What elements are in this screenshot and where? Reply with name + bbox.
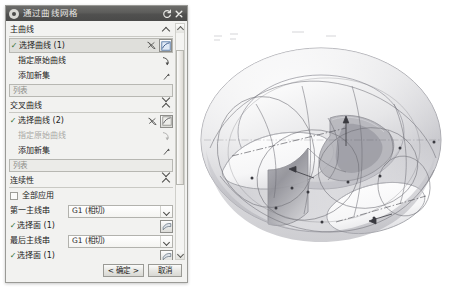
label-cross-select-curve: 选择曲线 (2) — [17, 114, 64, 128]
dialog-app-icon — [9, 9, 19, 19]
check-icon: ✓ — [10, 39, 18, 53]
curve-filter-icon[interactable] — [145, 39, 158, 52]
label-first-primary: 第一主线串 — [9, 204, 68, 218]
scrollbar-thumb[interactable] — [176, 50, 184, 185]
curve-filter-icon[interactable] — [146, 115, 159, 128]
combo-first-primary-value: G1 (相切) — [69, 205, 160, 217]
add-set-icon[interactable] — [160, 145, 173, 158]
label-last-primary: 最后主线串 — [9, 234, 68, 248]
label-cross-specify-origin: 指定原始曲线 — [17, 129, 66, 143]
combo-cross-list[interactable]: 列表 — [9, 159, 173, 172]
apply-all-checkbox[interactable] — [10, 192, 18, 200]
group-header-cross-curves[interactable]: 交叉曲线 — [9, 99, 173, 113]
cancel-button[interactable]: 取消 — [148, 264, 182, 277]
row-last-primary-continuity: 最后主线串 G1 (相切) — [9, 234, 173, 248]
combo-last-primary-value: G1 (相切) — [69, 235, 160, 247]
group-label-cross-curves: 交叉曲线 — [9, 99, 162, 112]
label-cross-add-new-set: 添加新集 — [17, 144, 50, 158]
combo-primary-list[interactable]: 列表 — [9, 84, 173, 97]
check-placeholder-icon: ✓ — [9, 69, 17, 83]
scroll-up-button[interactable] — [176, 24, 184, 33]
check-icon: ✓ — [9, 249, 17, 260]
row-primary-specify-origin[interactable]: ✓ 指定原始曲线 — [9, 54, 173, 68]
dialog-title: 通过曲线网格 — [23, 6, 161, 21]
check-placeholder-icon: ✓ — [9, 129, 17, 143]
scrollbar-track[interactable] — [176, 33, 184, 250]
select-curve-icon[interactable] — [160, 115, 173, 128]
3d-model-viewport[interactable] — [196, 0, 461, 297]
combo-last-primary-continuity[interactable]: G1 (相切) — [68, 235, 173, 248]
combo-cross-list-value: 列表 — [10, 159, 161, 172]
reset-icon[interactable] — [161, 8, 173, 20]
origin-point-icon[interactable] — [160, 55, 173, 68]
origin-point-icon — [160, 130, 173, 143]
dialog-scrollbar[interactable] — [175, 23, 185, 260]
label-last-primary-face: 选择面 (1) — [17, 249, 55, 260]
dialog-footer: < 确定 > 取消 — [6, 260, 187, 282]
check-placeholder-icon: ✓ — [9, 54, 17, 68]
row-cross-select-curve[interactable]: ✓ 选择曲线 (2) — [9, 114, 173, 128]
dialog-title-bar[interactable]: 通过曲线网格 — [6, 6, 187, 21]
row-last-primary-face[interactable]: ✓ 选择面 (1) — [9, 249, 173, 260]
scroll-down-button[interactable] — [176, 250, 184, 259]
combo-first-primary-continuity[interactable]: G1 (相切) — [68, 205, 173, 218]
chevron-down-icon — [160, 236, 172, 247]
through-curve-mesh-dialog: 通过曲线网格 主曲线 ✓ 选择曲线 (1) — [5, 5, 188, 283]
row-apply-all[interactable]: 全部应用 — [9, 189, 173, 203]
group-label-primary-curves: 主曲线 — [9, 23, 162, 36]
label-apply-all: 全部应用 — [21, 189, 54, 203]
group-label-continuity: 连续性 — [9, 174, 162, 187]
row-cross-specify-origin: ✓ 指定原始曲线 — [9, 129, 173, 143]
check-icon: ✓ — [9, 219, 17, 233]
label-first-primary-face: 选择面 (1) — [17, 219, 55, 233]
dialog-content: 主曲线 ✓ 选择曲线 (1) — [9, 23, 173, 260]
label-primary-add-new-set: 添加新集 — [17, 69, 50, 83]
group-header-continuity[interactable]: 连续性 — [9, 174, 173, 188]
curve-mesh-surface-model — [196, 0, 461, 297]
chevron-up-icon — [162, 101, 171, 110]
combo-primary-list-value: 列表 — [10, 84, 161, 97]
label-primary-select-curve: 选择曲线 (1) — [18, 39, 65, 53]
row-primary-select-curve[interactable]: ✓ 选择曲线 (1) — [9, 38, 173, 53]
select-face-icon[interactable] — [160, 250, 173, 261]
ok-button[interactable]: < 确定 > — [103, 264, 144, 277]
select-face-icon[interactable] — [160, 220, 173, 233]
close-icon[interactable] — [173, 8, 185, 20]
row-first-primary-face[interactable]: ✓ 选择面 (1) — [9, 219, 173, 233]
add-set-icon[interactable] — [160, 70, 173, 83]
row-first-primary-continuity: 第一主线串 G1 (相切) — [9, 204, 173, 218]
group-header-primary-curves[interactable]: 主曲线 — [9, 23, 173, 37]
row-primary-add-new-set[interactable]: ✓ 添加新集 — [9, 69, 173, 83]
dialog-body: 主曲线 ✓ 选择曲线 (1) — [6, 21, 187, 260]
chevron-up-icon — [162, 176, 171, 185]
check-icon: ✓ — [9, 114, 17, 128]
row-cross-add-new-set[interactable]: ✓ 添加新集 — [9, 144, 173, 158]
label-primary-specify-origin: 指定原始曲线 — [17, 54, 66, 68]
chevron-down-icon — [160, 206, 172, 217]
viewport-annotation-marks — [214, 32, 336, 40]
chevron-up-icon — [162, 25, 171, 34]
check-placeholder-icon: ✓ — [9, 144, 17, 158]
select-curve-icon[interactable] — [159, 39, 172, 52]
